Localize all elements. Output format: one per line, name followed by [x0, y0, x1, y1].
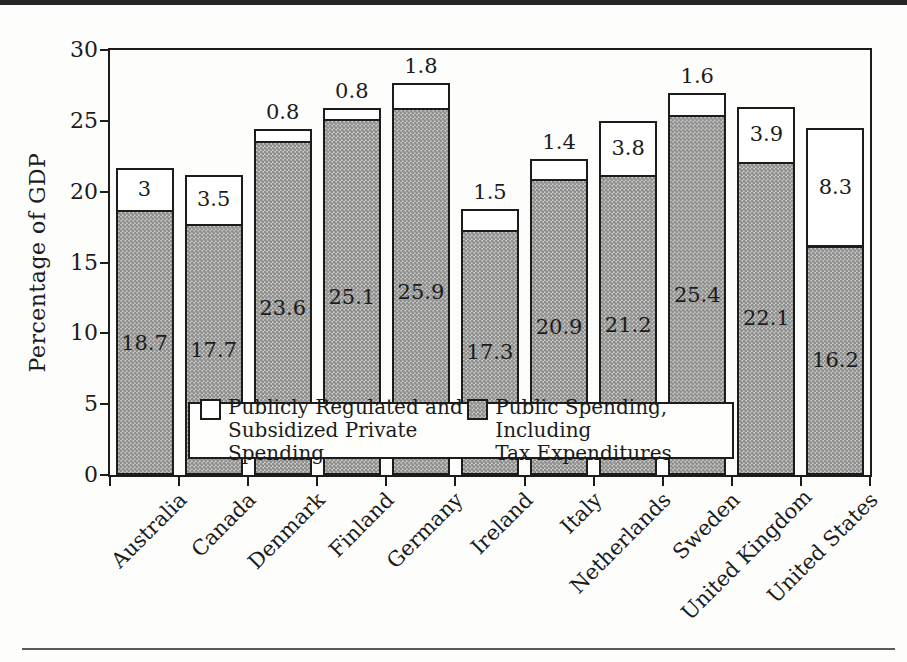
legend-box: Publicly Regulated and Subsidized Privat… [188, 402, 734, 459]
y-tick-0 [100, 474, 108, 476]
value-label-germany-private: 1.8 [386, 53, 455, 79]
value-label-netherlands-private: 3.8 [599, 135, 657, 161]
value-label-sweden-private: 1.6 [663, 63, 732, 89]
x-category-label-germany: Germany [330, 487, 469, 626]
y-tick-30 [100, 49, 108, 51]
value-label-italy-public: 20.9 [530, 314, 588, 340]
value-label-finland-public: 25.1 [323, 284, 381, 310]
value-label-australia-private: 3 [116, 176, 174, 202]
x-tick-6 [524, 477, 526, 486]
y-axis-title-text: Percentage of GDP [26, 153, 51, 373]
y-tick-20 [100, 191, 108, 193]
legend-swatch-gray-icon [467, 399, 488, 420]
value-label-canada-public: 17.7 [185, 337, 243, 363]
x-tick-2 [247, 477, 249, 486]
y-axis-title: Percentage of GDP [16, 48, 60, 477]
bottom-rule [22, 648, 895, 650]
x-category-label-united-kingdom: United Kingdom [676, 487, 815, 626]
y-tick-25 [100, 120, 108, 122]
x-category-label-italy: Italy [468, 487, 607, 626]
value-label-sweden-public: 25.4 [668, 282, 726, 308]
value-label-denmark-private: 0.8 [248, 99, 317, 125]
bar-denmark-private-segment [254, 129, 312, 142]
x-tick-8 [662, 477, 664, 486]
x-category-label-sweden: Sweden [607, 487, 746, 626]
top-rule [0, 0, 907, 5]
value-label-united-kingdom-private: 3.9 [737, 121, 795, 147]
y-tick-5 [100, 403, 108, 405]
y-tick-label-20: 20 [58, 179, 98, 205]
bar-ireland-private-segment [461, 209, 519, 232]
y-tick-label-15: 15 [58, 250, 98, 276]
value-label-canada-private: 3.5 [185, 186, 243, 212]
value-label-denmark-public: 23.6 [254, 295, 312, 321]
value-label-united-states-public: 16.2 [806, 347, 864, 373]
value-label-united-kingdom-public: 22.1 [737, 305, 795, 331]
bar-finland-private-segment [323, 108, 381, 121]
x-category-label-ireland: Ireland [399, 487, 538, 626]
x-tick-5 [454, 477, 456, 486]
legend-entry-public: Public Spending, Including Tax Expenditu… [467, 396, 720, 465]
x-category-label-australia: Australia [54, 487, 193, 626]
legend-entry-private: Publicly Regulated and Subsidized Privat… [200, 396, 467, 465]
x-tick-0 [109, 477, 111, 486]
value-label-australia-public: 18.7 [116, 330, 174, 356]
bar-germany-private-segment [392, 83, 450, 111]
legend-label-public-line2: Tax Expenditures [495, 442, 720, 465]
value-label-ireland-public: 17.3 [461, 339, 519, 365]
legend-label-public-line1: Public Spending, Including [495, 396, 720, 442]
x-tick-4 [385, 477, 387, 486]
y-tick-label-10: 10 [58, 320, 98, 346]
x-category-label-united-states: United States [745, 487, 884, 626]
bar-italy-private-segment [530, 159, 588, 181]
value-label-finland-private: 0.8 [317, 78, 386, 104]
legend-label-private-line2: Subsidized Private Spending [228, 419, 467, 465]
value-label-united-states-private: 8.3 [806, 174, 864, 200]
y-tick-label-25: 25 [58, 108, 98, 134]
x-tick-9 [731, 477, 733, 486]
figure-page: Percentage of GDP 05101520253018.73Austr… [0, 0, 907, 662]
value-label-ireland-private: 1.5 [455, 179, 524, 205]
x-tick-7 [593, 477, 595, 486]
value-label-italy-private: 1.4 [525, 129, 594, 155]
x-category-label-netherlands: Netherlands [538, 487, 677, 626]
y-tick-15 [100, 262, 108, 264]
y-tick-10 [100, 332, 108, 334]
x-tick-11 [869, 477, 871, 486]
x-tick-3 [316, 477, 318, 486]
y-tick-label-5: 5 [58, 391, 98, 417]
value-label-netherlands-public: 21.2 [599, 312, 657, 338]
y-tick-label-30: 30 [58, 37, 98, 63]
x-tick-1 [178, 477, 180, 486]
value-label-germany-public: 25.9 [392, 279, 450, 305]
legend-label-public: Public Spending, Including Tax Expenditu… [495, 396, 720, 465]
legend-label-private-line1: Publicly Regulated and [228, 396, 467, 419]
plot-area: 05101520253018.73Australia17.73.5Canada2… [108, 48, 872, 477]
bar-sweden-private-segment [668, 93, 726, 118]
legend-label-private: Publicly Regulated and Subsidized Privat… [228, 396, 467, 465]
y-tick-label-0: 0 [58, 462, 98, 488]
legend-swatch-white-icon [200, 399, 221, 420]
